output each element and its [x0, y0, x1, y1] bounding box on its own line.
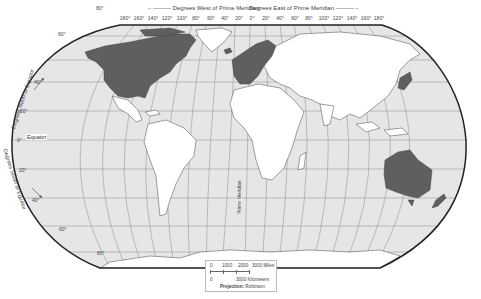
- equator-label: Equator: [26, 134, 47, 140]
- lon-label: 60°: [291, 15, 299, 21]
- lon-label: 160°: [134, 15, 144, 21]
- world-map: [0, 0, 481, 299]
- lon-label: 120°: [333, 15, 343, 21]
- lat-label-n60: 60°: [58, 31, 66, 37]
- lat-label-n40: 40°: [34, 79, 42, 85]
- east-header: Degrees East of Prime Meridian ———→: [249, 5, 360, 11]
- lon-label: 40°: [221, 15, 229, 21]
- lon-label: 160°: [361, 15, 371, 21]
- west-header: ←——— Degrees West of Prime Meridian: [147, 5, 259, 11]
- scale-bar: [210, 271, 250, 275]
- projection-label: Projection: Robinson: [220, 284, 265, 289]
- lat-label-s60: 60°: [59, 226, 67, 232]
- scale-miles-3000: 3000 Miles: [252, 263, 274, 268]
- lon-label: 100°: [319, 15, 329, 21]
- lon-label: 20°: [262, 15, 270, 21]
- prime-meridian-label: Prime Meridian: [236, 180, 242, 214]
- lon-label: 80°: [192, 15, 200, 21]
- lon-label: 40°: [276, 15, 284, 21]
- lat-label-n80: 80°: [96, 5, 104, 11]
- longitude-labels: 180° 160° 140° 120° 100° 80° 60° 40° 20°…: [120, 15, 382, 23]
- lat-label-s20: 20°: [19, 167, 27, 173]
- lon-label: 100°: [177, 15, 187, 21]
- scale-legend: 0 1000 2000 3000 Miles 0 3000 Kilometers…: [205, 260, 277, 292]
- lon-label: 20°: [235, 15, 243, 21]
- lon-label: 180°: [374, 15, 384, 21]
- lon-label: 140°: [148, 15, 158, 21]
- scale-km-0: 0: [210, 277, 213, 282]
- lat-label-eq: 0°: [17, 137, 22, 143]
- scale-miles-1000: 1000: [222, 263, 232, 268]
- scale-km-3000: 3000 Kilometers: [236, 277, 269, 282]
- lon-label: 140°: [347, 15, 357, 21]
- lon-label: 60°: [207, 15, 215, 21]
- scale-miles-0: 0: [210, 263, 213, 268]
- lon-label: 120°: [162, 15, 172, 21]
- lat-label-s40: 40°: [32, 197, 40, 203]
- lon-label: 80°: [305, 15, 313, 21]
- scale-miles-2000: 2000: [238, 263, 248, 268]
- lon-label: 0°: [250, 15, 255, 21]
- projection-value: Robinson: [245, 284, 264, 289]
- lat-label-s80: 80°: [97, 250, 105, 256]
- lon-label: 180°: [120, 15, 130, 21]
